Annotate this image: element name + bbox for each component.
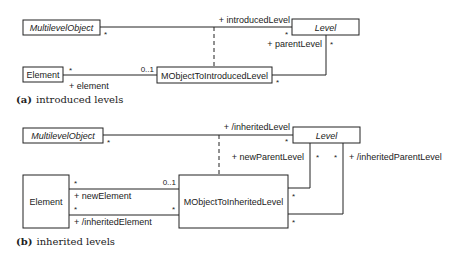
- class-mobject-to-inherited-level[interactable]: MObjectToInheritedLevel: [179, 175, 288, 228]
- association-new-parent-level: [288, 143, 310, 188]
- multiplicity: 0..1: [141, 65, 155, 74]
- class-name: MObjectToInheritedLevel: [184, 197, 284, 207]
- multiplicity: *: [276, 78, 279, 87]
- diagram-introduced-levels: MultilevelObject Level Element MObjectTo…: [16, 15, 359, 105]
- role-element: + element: [69, 81, 109, 91]
- multiplicity: *: [316, 153, 319, 162]
- class-element[interactable]: Element: [23, 175, 69, 228]
- role-new-parent-level: + newParentLevel: [232, 152, 304, 162]
- multiplicity: *: [172, 205, 175, 214]
- multiplicity: *: [104, 30, 107, 39]
- class-name: Level: [315, 23, 338, 33]
- multiplicity: *: [292, 192, 295, 201]
- caption-a: (a)introduced levels: [16, 94, 123, 105]
- multiplicity: *: [69, 66, 72, 75]
- role-inherited-parent-level: + /inheritedParentLevel: [349, 152, 442, 162]
- multiplicity: *: [292, 218, 295, 227]
- multiplicity: *: [330, 40, 333, 49]
- class-level[interactable]: Level: [292, 19, 359, 35]
- multiplicity: *: [74, 179, 77, 188]
- diagram-inherited-levels: MultilevelObject Level Element MObjectTo…: [16, 122, 442, 247]
- class-name: Level: [316, 131, 339, 141]
- class-name: MultilevelObject: [30, 23, 94, 33]
- caption-b: (b)inherited levels: [16, 236, 115, 247]
- multiplicity: 0..1: [163, 178, 177, 187]
- class-name: MultilevelObject: [31, 131, 95, 141]
- class-name: Element: [26, 70, 60, 80]
- role-new-element: + newElement: [74, 191, 132, 201]
- multiplicity: *: [107, 138, 110, 147]
- multiplicity: *: [74, 205, 77, 214]
- multiplicity: *: [334, 153, 337, 162]
- class-name: MObjectToIntroducedLevel: [161, 71, 268, 81]
- uml-diagram: MultilevelObject Level Element MObjectTo…: [0, 0, 454, 254]
- class-name: Element: [29, 197, 63, 207]
- class-mobject-to-introduced-level[interactable]: MObjectToIntroducedLevel: [157, 67, 272, 83]
- class-element[interactable]: Element: [23, 67, 63, 82]
- role-parent-level: + parentLevel: [267, 39, 322, 49]
- role-inherited-element: + /inheritedElement: [74, 217, 152, 227]
- class-level[interactable]: Level: [293, 127, 360, 143]
- class-multilevel-object[interactable]: MultilevelObject: [23, 20, 100, 35]
- class-multilevel-object[interactable]: MultilevelObject: [23, 128, 103, 143]
- multiplicity: *: [285, 30, 288, 39]
- role-inherited-level: + /inheritedLevel: [224, 122, 290, 132]
- role-introduced-level: + introducedLevel: [219, 15, 290, 25]
- multiplicity: *: [285, 137, 288, 146]
